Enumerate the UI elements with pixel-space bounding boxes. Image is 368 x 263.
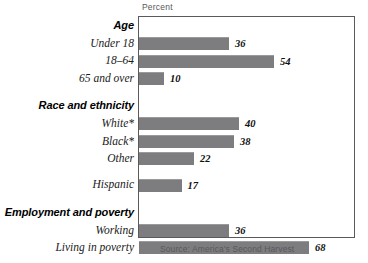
bar-row: Under 1836 (0, 35, 368, 52)
bar-row: Working36 (0, 222, 368, 239)
category-label: 18–64 (0, 52, 134, 69)
category-label: Hispanic (0, 176, 134, 193)
bar-row: 65 and over10 (0, 70, 368, 87)
bar-value-label: 54 (280, 55, 291, 68)
bar-value-label: 17 (188, 179, 199, 192)
bar-value-label: 40 (245, 117, 256, 130)
bar (139, 135, 234, 148)
bar-value-label: 22 (200, 152, 211, 165)
bar-value-label: 10 (170, 72, 181, 85)
bar-chart-figure: Percent AgeUnder 183618–645465 and over1… (0, 0, 368, 263)
category-label: 65 and over (0, 70, 134, 87)
group-header-label: Employment and poverty (0, 203, 134, 222)
bar-row: 18–6454 (0, 52, 368, 69)
bar (139, 224, 229, 237)
group-header-row: Employment and poverty (0, 203, 368, 222)
source-note: Source: America's Second Harvest (160, 244, 294, 254)
bar-row: Hispanic17 (0, 176, 368, 193)
bar-row: White*40 (0, 115, 368, 132)
bar-value-label: 68 (315, 241, 326, 254)
category-label: Under 18 (0, 35, 134, 52)
bar (139, 55, 274, 68)
group-header-label: Age (0, 16, 134, 35)
group-header-row: Race and ethnicity (0, 96, 368, 115)
group-header-label: Race and ethnicity (0, 96, 134, 115)
bar (139, 179, 182, 192)
bar (139, 117, 239, 130)
bar-value-label: 36 (235, 224, 246, 237)
bar-row: Other22 (0, 150, 368, 167)
bar (139, 72, 164, 85)
category-label: Living in poverty (0, 239, 134, 256)
bar (139, 152, 194, 165)
category-label: Black* (0, 133, 134, 150)
bar-value-label: 36 (235, 37, 246, 50)
axis-caption-percent: Percent (142, 2, 173, 12)
category-label: White* (0, 115, 134, 132)
bar-row: Black*38 (0, 133, 368, 150)
category-label: Other (0, 150, 134, 167)
chart-rows: AgeUnder 183618–645465 and over10Race an… (0, 16, 368, 257)
category-label: Working (0, 222, 134, 239)
bar-value-label: 38 (240, 135, 251, 148)
group-header-row: Age (0, 16, 368, 35)
bar (139, 37, 229, 50)
